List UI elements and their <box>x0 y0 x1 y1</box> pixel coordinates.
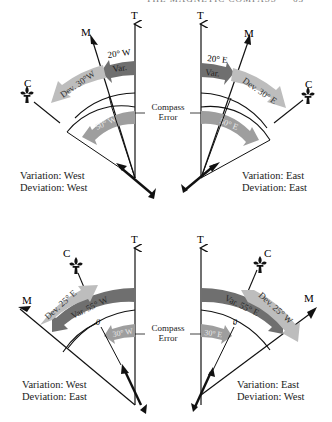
caption-bottom-right: Variation: East Deviation: West <box>237 379 305 403</box>
caption-deviation: Deviation: West <box>20 182 88 194</box>
caption-top-right: Variation: East Deviation: East <box>242 170 307 194</box>
compass-error-leader-lines <box>0 0 332 422</box>
caption-top-left: Variation: West Deviation: West <box>20 170 88 194</box>
caption-deviation: Deviation: East <box>242 182 307 194</box>
caption-variation: Variation: East <box>242 170 307 182</box>
caption-variation: Variation: West <box>22 379 87 391</box>
caption-bottom-left: Variation: West Deviation: East <box>22 379 87 403</box>
caption-variation: Variation: West <box>20 170 88 182</box>
caption-variation: Variation: East <box>237 379 305 391</box>
caption-deviation: Deviation: East <box>22 391 87 403</box>
caption-deviation: Deviation: West <box>237 391 305 403</box>
